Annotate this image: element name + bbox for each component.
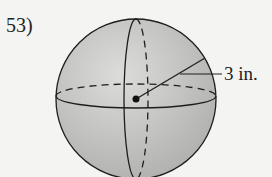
sphere-figure [0, 0, 272, 177]
center-dot [133, 96, 140, 103]
radius-label: 3 in. [224, 63, 258, 85]
